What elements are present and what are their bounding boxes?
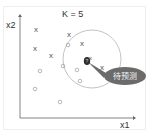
chart-title: K = 5 (62, 10, 83, 19)
x-axis-arrow-icon (133, 116, 136, 120)
o-marker-icon (38, 69, 42, 73)
y-axis-arrow-icon (18, 14, 22, 17)
x-marker-icon: x (67, 30, 71, 39)
x-marker-icon: x (33, 44, 37, 53)
o-marker-icon (58, 100, 62, 104)
x-axis-label: x1 (120, 121, 130, 130)
o-marker-icon (33, 87, 37, 91)
class-o-points (33, 43, 82, 104)
o-marker-icon (75, 68, 79, 72)
x-marker-icon: x (34, 25, 38, 34)
knn-diagram: x x x x x x x ? 待预测 (0, 0, 156, 133)
x-marker-icon: x (80, 39, 84, 48)
y-axis-label: x2 (6, 21, 16, 30)
class-x-points: x x x x x x x (33, 25, 104, 72)
o-marker-icon (78, 79, 82, 83)
x-marker-icon: x (49, 51, 53, 60)
callout-text: 待预测 (113, 71, 137, 81)
query-label: ? (86, 58, 89, 64)
